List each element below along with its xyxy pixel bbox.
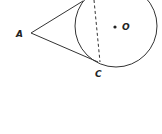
dashed-chord	[94, 0, 100, 62]
label-c: C	[95, 69, 102, 79]
tangent-lower-ac	[31, 33, 98, 62]
center-dot-o	[113, 25, 116, 28]
label-a: A	[15, 29, 23, 39]
label-o: O	[122, 22, 130, 32]
geometry-diagram: A O C	[0, 0, 162, 134]
